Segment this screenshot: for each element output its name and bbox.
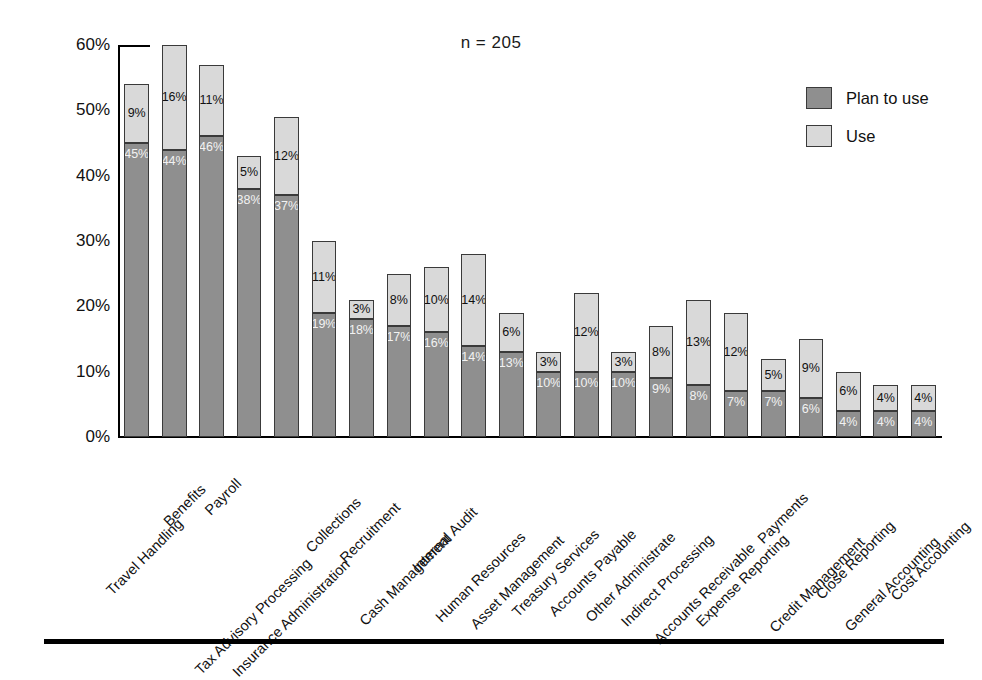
bar-group[interactable]: 44%16% (162, 45, 187, 437)
bar-group[interactable]: 17%8% (387, 274, 412, 437)
bar-group[interactable]: 4%6% (836, 372, 861, 437)
y-axis-tick-40: 40% (48, 166, 110, 186)
bar-segment-use[interactable]: 8% (387, 274, 412, 326)
bar-segment-plan-to-use[interactable]: 13% (499, 352, 524, 437)
bar-segment-use[interactable]: 11% (199, 65, 224, 137)
bar-group[interactable]: 10%3% (536, 352, 561, 437)
bar-value-label: 3% (540, 356, 558, 369)
bar-segment-use[interactable]: 14% (461, 254, 486, 345)
bar-segment-use[interactable]: 13% (686, 300, 711, 385)
bar-segment-use[interactable]: 6% (499, 313, 524, 352)
bar-segment-plan-to-use[interactable]: 10% (536, 372, 561, 437)
bar-segment-use[interactable]: 3% (611, 352, 636, 372)
bar-segment-use[interactable]: 8% (649, 326, 674, 378)
bottom-divider (44, 639, 944, 644)
bar-value-label: 10% (424, 294, 449, 307)
bar-segment-plan-to-use[interactable]: 38% (237, 189, 262, 437)
bar-segment-plan-to-use[interactable]: 19% (312, 313, 337, 437)
legend-item[interactable]: Plan to use (806, 82, 976, 114)
bar-segment-plan-to-use[interactable]: 6% (799, 398, 824, 437)
bar-value-label: 8% (652, 346, 670, 359)
bar-segment-use[interactable]: 16% (162, 45, 187, 150)
y-axis-tick-60: 60% (48, 35, 110, 55)
bar-segment-plan-to-use[interactable]: 4% (836, 411, 861, 437)
bar-segment-plan-to-use[interactable]: 44% (162, 150, 187, 437)
bar-value-label: 11% (200, 94, 224, 107)
legend-item[interactable]: Use (806, 120, 976, 152)
bar-segment-use[interactable]: 4% (911, 385, 936, 411)
x-axis-label: Cost Accounting (888, 518, 973, 603)
bar-segment-use[interactable]: 12% (274, 117, 299, 195)
bar-segment-use[interactable]: 6% (836, 372, 861, 411)
bar-value-label: 12% (574, 326, 599, 339)
bar-segment-use[interactable]: 12% (724, 313, 749, 391)
bar-segment-plan-to-use[interactable]: 16% (424, 332, 449, 437)
bar-segment-plan-to-use[interactable]: 10% (611, 372, 636, 437)
bar-group[interactable]: 18%3% (349, 300, 374, 437)
bar-value-label: 6% (839, 385, 857, 398)
bar-group[interactable]: 19%11% (312, 241, 337, 437)
bar-segment-plan-to-use[interactable]: 45% (124, 143, 149, 437)
bar-segment-plan-to-use[interactable]: 7% (724, 391, 749, 437)
bar-group[interactable]: 45%9% (124, 84, 149, 437)
bar-segment-use[interactable]: 12% (574, 293, 599, 371)
bar-value-label: 3% (352, 303, 370, 316)
bar-value-label: 4% (877, 416, 895, 429)
bar-segment-plan-to-use[interactable]: 17% (387, 326, 412, 437)
bar-group[interactable]: 7%5% (761, 359, 786, 437)
bar-value-label: 16% (424, 337, 449, 350)
bar-value-label: 18% (349, 324, 374, 337)
bar-value-label: 4% (914, 392, 932, 405)
bar-value-label: 12% (274, 150, 299, 163)
bar-segment-use[interactable]: 3% (536, 352, 561, 372)
bar-group[interactable]: 9%8% (649, 326, 674, 437)
bar-segment-use[interactable]: 9% (124, 84, 149, 143)
bar-segment-use[interactable]: 9% (799, 339, 824, 398)
x-axis-label: Accounts Receivable (650, 540, 757, 647)
x-axis-label: Payroll (201, 475, 244, 518)
bar-value-label: 14% (461, 351, 486, 364)
bar-segment-use[interactable]: 10% (424, 267, 449, 332)
bar-group[interactable]: 14%14% (461, 254, 486, 437)
bar-segment-plan-to-use[interactable]: 10% (574, 372, 599, 437)
bar-value-label: 45% (124, 148, 149, 161)
bar-segment-plan-to-use[interactable]: 14% (461, 346, 486, 437)
x-axis-label-text: Payroll (201, 475, 244, 518)
bar-segment-plan-to-use[interactable]: 9% (649, 378, 674, 437)
bar-group[interactable]: 8%13% (686, 300, 711, 437)
bar-group[interactable]: 7%12% (724, 313, 749, 437)
bar-group[interactable]: 13%6% (499, 313, 524, 437)
bar-segment-plan-to-use[interactable]: 37% (274, 195, 299, 437)
x-axis-label-text: Accounts Receivable (650, 540, 757, 647)
bar-value-label: 17% (387, 331, 412, 344)
bar-group[interactable]: 38%5% (237, 156, 262, 437)
bar-group[interactable]: 16%10% (424, 267, 449, 437)
bar-segment-plan-to-use[interactable]: 46% (199, 136, 224, 437)
bar-segment-use[interactable]: 5% (237, 156, 262, 189)
bar-group[interactable]: 37%12% (274, 117, 299, 437)
bar-segment-use[interactable]: 5% (761, 359, 786, 392)
y-axis-tick-0: 0% (48, 427, 110, 447)
bar-group[interactable]: 4%4% (873, 385, 898, 437)
bar-group[interactable]: 4%4% (911, 385, 936, 437)
bar-group[interactable]: 6%9% (799, 339, 824, 437)
bar-segment-plan-to-use[interactable]: 8% (686, 385, 711, 437)
bar-segment-use[interactable]: 11% (312, 241, 337, 313)
bar-segment-plan-to-use[interactable]: 7% (761, 391, 786, 437)
bar-segment-use[interactable]: 4% (873, 385, 898, 411)
bar-value-label: 37% (274, 200, 299, 213)
bar-group[interactable]: 10%3% (611, 352, 636, 437)
bar-segment-plan-to-use[interactable]: 18% (349, 319, 374, 437)
bar-value-label: 10% (611, 377, 636, 390)
bar-group[interactable]: 10%12% (574, 293, 599, 437)
bar-segment-plan-to-use[interactable]: 4% (873, 411, 898, 437)
x-axis-label: Internal Audit (409, 504, 480, 575)
bar-group[interactable]: 46%11% (199, 65, 224, 437)
bar-value-label: 19% (312, 318, 337, 331)
bar-value-label: 9% (802, 362, 820, 375)
bar-segment-use[interactable]: 3% (349, 300, 374, 320)
bar-value-label: 6% (802, 403, 820, 416)
bar-value-label: 14% (461, 294, 486, 307)
bar-segment-plan-to-use[interactable]: 4% (911, 411, 936, 437)
bar-value-label: 8% (689, 390, 707, 403)
